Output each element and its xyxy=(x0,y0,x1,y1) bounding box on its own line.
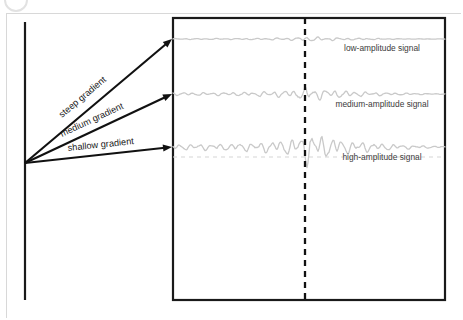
label-layer: low-amplitude signalmedium-amplitude sig… xyxy=(57,43,429,162)
shallow-gradient-arrow-head xyxy=(163,144,172,151)
low-amplitude-signal-label: low-amplitude signal xyxy=(344,43,420,53)
medium-gradient-arrow-head xyxy=(162,94,172,101)
high-amplitude-signal-label: high-amplitude signal xyxy=(342,152,421,162)
figure-root: low-amplitude signalmedium-amplitude sig… xyxy=(0,0,463,320)
diagram-canvas: low-amplitude signalmedium-amplitude sig… xyxy=(0,0,463,320)
medium-amplitude-signal-label: medium-amplitude signal xyxy=(335,99,428,109)
medium-gradient-arrow-shaft xyxy=(25,97,166,163)
low-amplitude-signal-trace xyxy=(173,37,445,41)
